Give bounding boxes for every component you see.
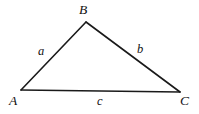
- vertex-label-b: B: [79, 3, 87, 17]
- triangle-edge-ab: [21, 22, 86, 90]
- triangle-edge-bc: [86, 22, 180, 92]
- side-label-a: a: [38, 45, 44, 58]
- triangle-edge-ac: [21, 90, 180, 92]
- vertex-label-c: C: [180, 94, 189, 108]
- vertex-label-a: A: [9, 94, 17, 108]
- triangle-figure: B A C a b c: [0, 0, 199, 114]
- side-label-c: c: [97, 95, 103, 108]
- side-label-b: b: [137, 43, 143, 56]
